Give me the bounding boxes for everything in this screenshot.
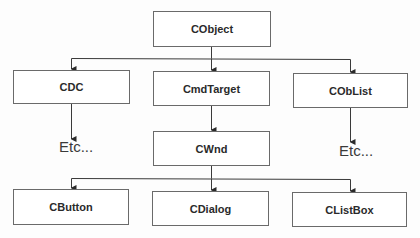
node-cwnd: CWnd: [153, 131, 270, 166]
node-cdialog: CDialog: [152, 191, 269, 226]
node-cdc: CDC: [13, 70, 130, 104]
node-cbutton: CButton: [13, 189, 129, 225]
node-coblist: CObList: [293, 73, 408, 108]
etc-label-coblist: Etc...: [339, 142, 373, 159]
node-clistbox: CListBox: [292, 192, 407, 227]
node-cmdtarget: CmdTarget: [153, 71, 270, 106]
node-cobject: CObject: [153, 11, 271, 47]
etc-label-cdc: Etc...: [59, 138, 93, 155]
diagram-canvas: CObject CDC CmdTarget CObList Etc... CWn…: [0, 0, 420, 238]
